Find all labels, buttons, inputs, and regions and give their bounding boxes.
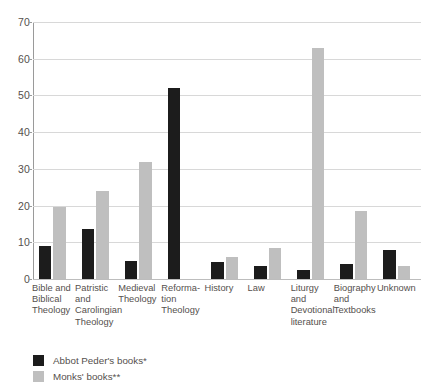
bar — [125, 261, 138, 279]
y-axis-tick-label: 20 — [4, 201, 30, 211]
y-axis-ticks: 010203040506070 — [0, 0, 30, 257]
bar — [312, 48, 325, 279]
x-axis-labels: Bible andBiblicalTheologyPatristicandCar… — [33, 283, 421, 343]
y-axis-tick-label: 0 — [4, 274, 30, 284]
y-axis-tick-mark — [28, 95, 32, 96]
bar — [53, 207, 66, 279]
bar — [355, 211, 368, 279]
plot-area — [33, 22, 421, 279]
y-axis-tick-mark — [28, 59, 32, 60]
legend-item-label: Abbot Peder's books* — [53, 355, 147, 366]
bar — [254, 266, 267, 279]
legend-item[interactable]: Monks' books** — [33, 369, 283, 383]
y-axis-tick-mark — [28, 206, 32, 207]
y-axis-tick-mark — [28, 279, 32, 280]
gridline — [33, 279, 421, 280]
bar — [96, 191, 109, 279]
y-axis-tick-mark — [28, 132, 32, 133]
y-axis-tick-label: 50 — [4, 90, 30, 100]
bar — [39, 246, 52, 279]
bar — [226, 257, 239, 279]
y-axis-tick-mark — [28, 22, 32, 23]
y-axis-tick-label: 30 — [4, 164, 30, 174]
y-axis-tick-label: 60 — [4, 54, 30, 64]
y-axis-tick-label: 70 — [4, 17, 30, 27]
chart-legend: Abbot Peder's books*Monks' books** — [33, 353, 283, 385]
bar — [383, 250, 396, 279]
bar — [398, 266, 411, 279]
y-axis-tick-label: 10 — [4, 237, 30, 247]
bar — [82, 229, 95, 279]
bar — [211, 262, 224, 279]
bar — [297, 270, 310, 279]
bar — [139, 162, 152, 279]
legend-swatch-icon — [33, 355, 44, 366]
bars — [33, 22, 421, 279]
legend-item-label: Monks' books** — [53, 371, 120, 382]
bar — [168, 88, 181, 279]
bar-chart: 010203040506070 Bible andBiblicalTheolog… — [0, 0, 425, 391]
y-axis-tick-mark — [28, 242, 32, 243]
bar — [340, 264, 353, 279]
x-axis-label: Unknown — [377, 283, 425, 294]
legend-item[interactable]: Abbot Peder's books* — [33, 353, 283, 367]
bar — [269, 248, 282, 279]
y-axis-tick-mark — [28, 169, 32, 170]
y-axis-tick-label: 40 — [4, 127, 30, 137]
legend-swatch-icon — [33, 371, 44, 382]
